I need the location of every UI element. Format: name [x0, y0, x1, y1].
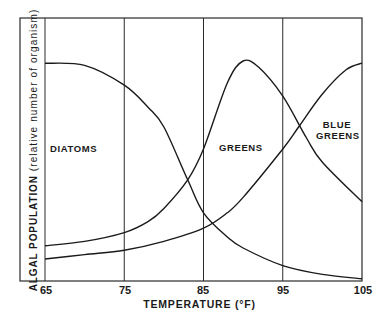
x-tick-65: 65 — [40, 284, 52, 296]
label-blue-greens: BLUE GREENS — [320, 119, 354, 141]
x-axis-label: TEMPERATURE (°F) — [0, 298, 389, 310]
x-tick-105: 105 — [354, 284, 372, 296]
x-tick-75: 75 — [119, 284, 131, 296]
label-diatoms: DIATOMS — [50, 143, 97, 154]
label-blue-greens-line1: BLUE — [323, 119, 351, 130]
y-axis-label-sub: (relative number of organism) — [28, 9, 39, 175]
y-axis-label-main: ALGAL POPULATION — [28, 175, 39, 291]
x-tick-85: 85 — [197, 284, 209, 296]
chart-plot-area — [0, 0, 389, 322]
label-blue-greens-line2: GREENS — [316, 130, 360, 141]
y-axis-label: ALGAL POPULATION (relative number of org… — [28, 9, 39, 292]
label-greens: GREENS — [219, 142, 263, 153]
x-tick-95: 95 — [277, 284, 289, 296]
